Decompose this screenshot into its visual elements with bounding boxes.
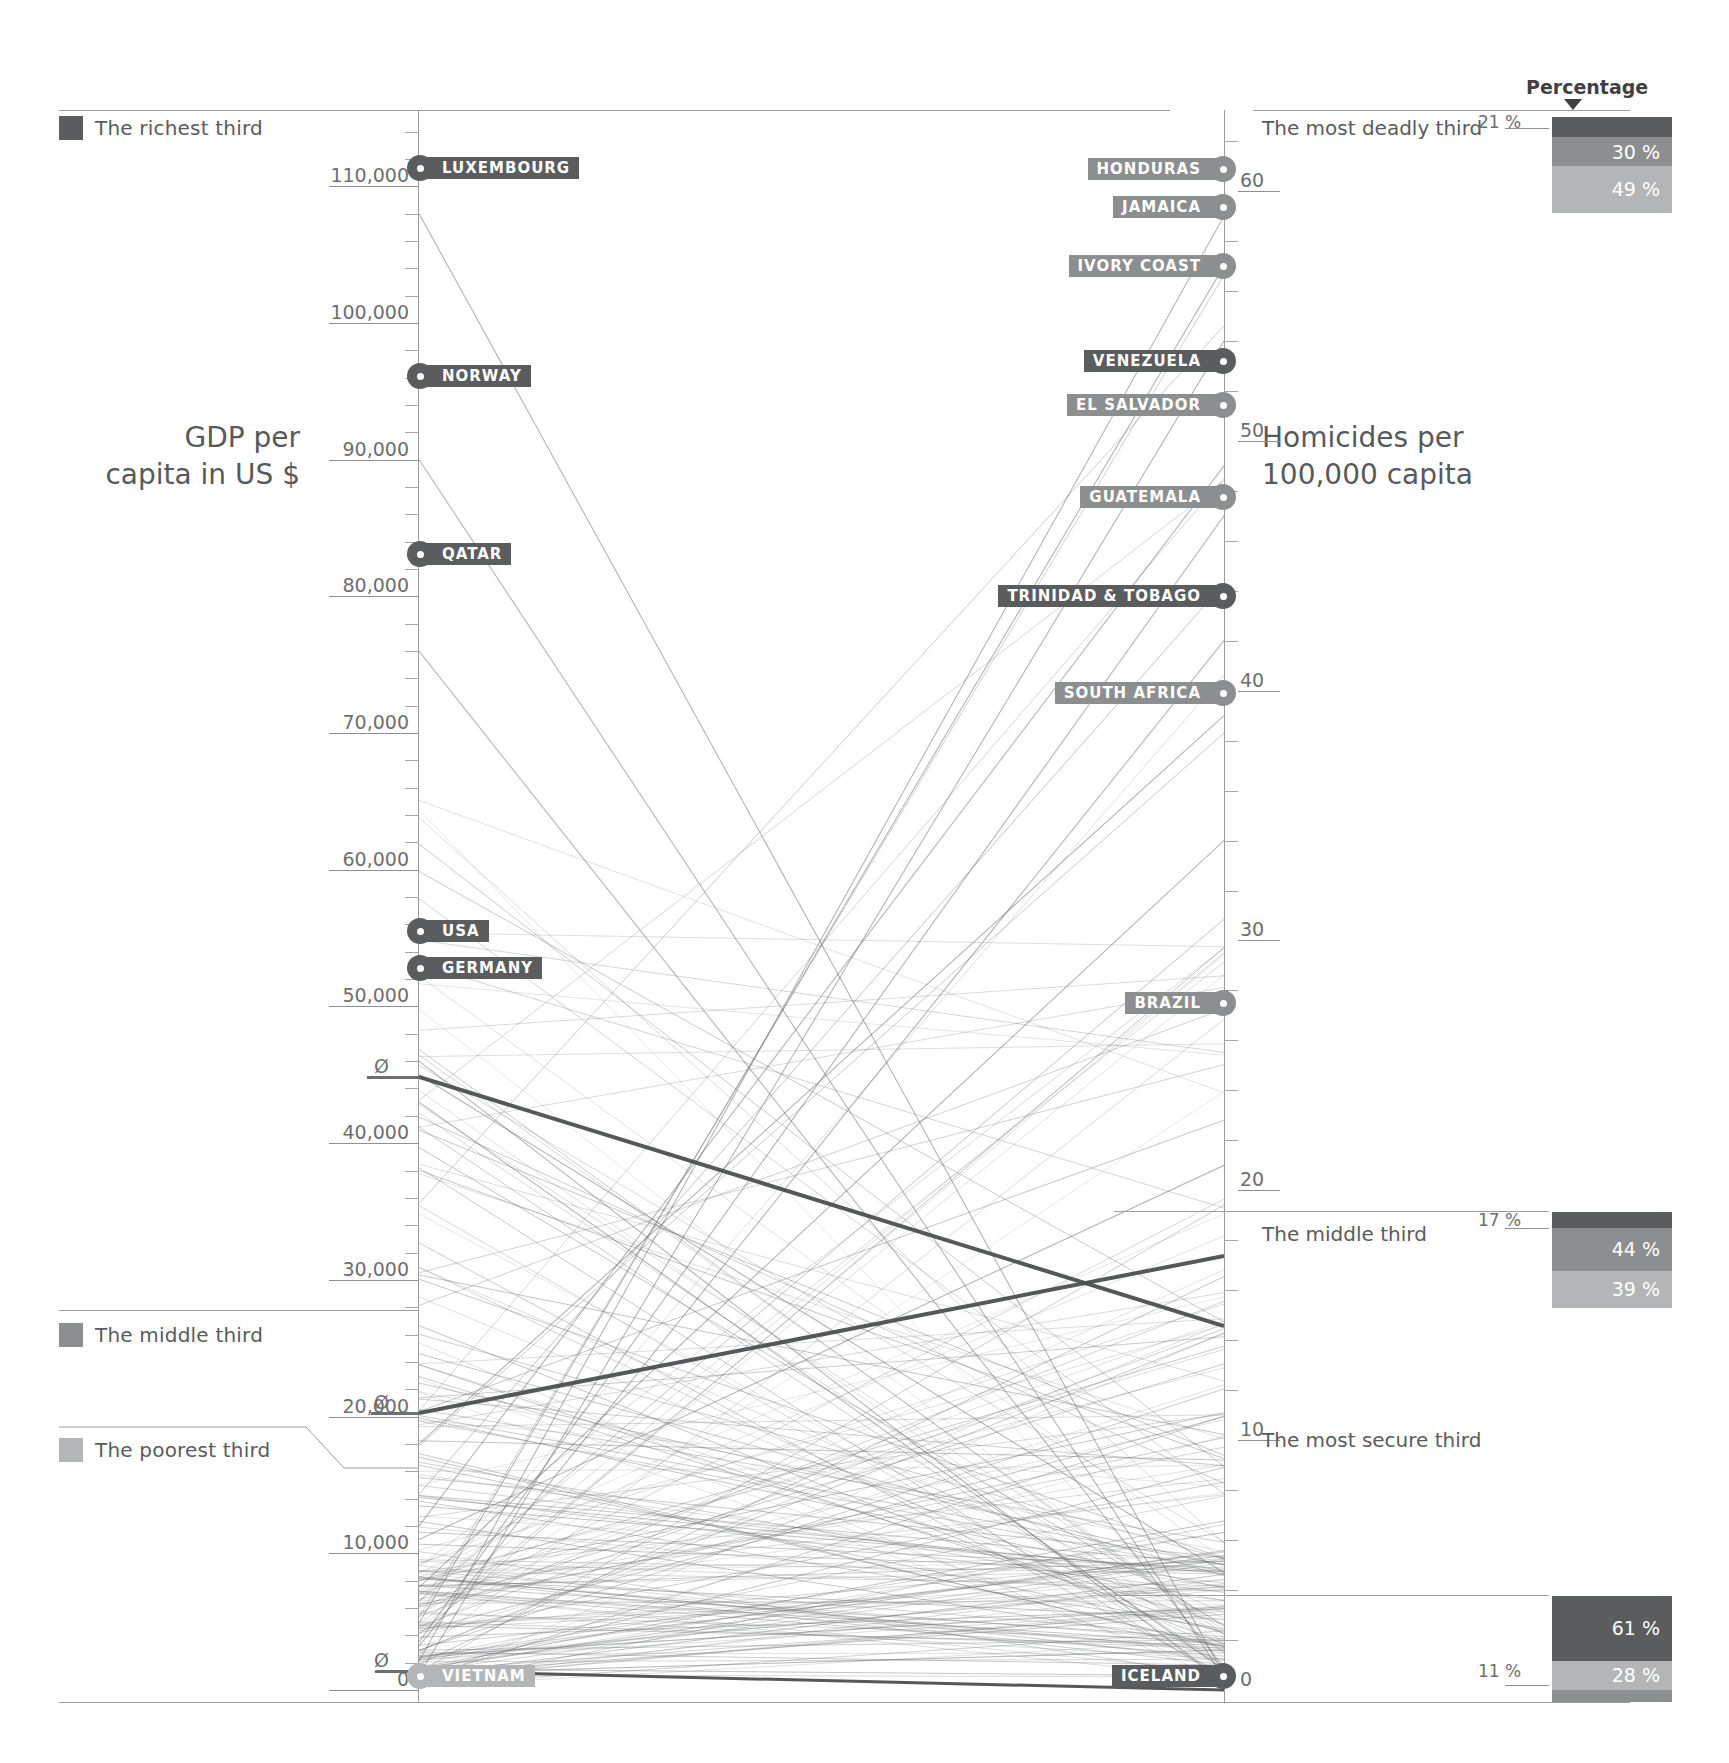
right-minor-tick <box>1224 241 1238 242</box>
country-label-trinidad-tobago[interactable]: TRINIDAD & TOBAGO <box>0 583 1236 609</box>
country-label-text: USA <box>426 920 489 942</box>
country-marker-dot <box>407 541 433 567</box>
left-tick-label: 100,000 <box>259 301 409 323</box>
bottom-frame-rule <box>59 1702 1630 1703</box>
legend-label-poorest: The poorest third <box>95 1438 270 1462</box>
legend-item-poorest[interactable]: The poorest third <box>59 1438 270 1462</box>
country-label-text: TRINIDAD & TOBAGO <box>998 585 1217 607</box>
bar-segment-value: 39 % <box>1612 1278 1672 1300</box>
country-label-text: SOUTH AFRICA <box>1055 682 1217 704</box>
bar-segment <box>1552 117 1672 137</box>
top-frame-rule <box>59 110 1170 111</box>
country-marker-dot <box>407 363 433 389</box>
right-tick-line <box>1238 191 1280 192</box>
panel-rule-most-deadly-third <box>1253 110 1630 111</box>
bar-segment-value: 49 % <box>1612 178 1672 200</box>
left-minor-tick <box>405 1088 419 1089</box>
country-label-text: IVORY COAST <box>1069 255 1218 277</box>
left-tick-line <box>329 1143 419 1144</box>
country-marker-dot <box>407 1663 433 1689</box>
right-tick-label: 60 <box>1240 169 1264 191</box>
country-label-qatar[interactable]: QATAR <box>407 541 511 567</box>
bar-segment: 49 % <box>1552 166 1672 213</box>
country-label-ivory-coast[interactable]: IVORY COAST <box>0 253 1236 279</box>
panel-outside-pct-most-secure-third: 11 % <box>1478 1661 1521 1681</box>
left-tick-line <box>329 1690 419 1691</box>
stacked-bar-middle-third[interactable]: 44 %39 % <box>1552 1212 1672 1308</box>
bar-segment-value: 44 % <box>1612 1238 1672 1260</box>
panel-leader-line-middle-third <box>1505 1228 1549 1229</box>
panel-title-most-secure-third: The most secure third <box>1262 1428 1481 1452</box>
left-minor-tick <box>405 788 419 789</box>
left-tick-line <box>329 733 419 734</box>
left-tick-label: 10,000 <box>259 1531 409 1553</box>
country-label-guatemala[interactable]: GUATEMALA <box>0 484 1236 510</box>
left-minor-tick <box>405 1444 419 1445</box>
right-tick-label: 40 <box>1240 669 1264 691</box>
left-tick-line <box>329 323 419 324</box>
right-minor-tick <box>1224 541 1238 542</box>
right-axis-title: Homicides per 100,000 capita <box>1262 420 1562 494</box>
left-minor-tick <box>405 897 419 898</box>
left-average-line <box>367 1076 419 1079</box>
country-marker-dot <box>1210 680 1236 706</box>
panel-title-middle-third: The middle third <box>1262 1222 1427 1246</box>
left-minor-tick <box>405 1471 419 1472</box>
left-minor-tick <box>405 432 419 433</box>
left-minor-tick <box>405 842 419 843</box>
left-tick-label: 30,000 <box>259 1258 409 1280</box>
stacked-bar-most-deadly-third[interactable]: 30 %49 % <box>1552 117 1672 213</box>
country-marker-dot <box>1210 1663 1236 1689</box>
country-label-germany[interactable]: GERMANY <box>407 955 542 981</box>
country-label-honduras[interactable]: HONDURAS <box>0 156 1236 182</box>
country-label-venezuela[interactable]: VENEZUELA <box>0 348 1236 374</box>
legend-label-middle: The middle third <box>95 1323 263 1347</box>
middle-third-legend-rule <box>59 1310 419 1311</box>
left-minor-tick <box>405 1307 419 1308</box>
panel-leader-line-most-deadly-third <box>1505 128 1549 129</box>
country-label-el-salvador[interactable]: EL SALVADOR <box>0 392 1236 418</box>
country-marker-dot <box>1210 194 1236 220</box>
left-average-label: Ø <box>269 1391 389 1413</box>
country-label-text: HONDURAS <box>1088 158 1217 180</box>
legend-item-middle[interactable]: The middle third <box>59 1323 263 1347</box>
left-minor-tick <box>405 1608 419 1609</box>
country-marker-dot <box>1210 156 1236 182</box>
left-minor-tick <box>405 1389 419 1390</box>
stacked-bar-most-secure-third[interactable]: 61 %28 % <box>1552 1596 1672 1702</box>
country-marker-dot <box>1210 392 1236 418</box>
country-label-text: ICELAND <box>1112 1665 1217 1687</box>
right-minor-tick <box>1224 1490 1238 1491</box>
left-tick-line <box>329 1553 419 1554</box>
legend-item-richest[interactable]: The richest third <box>59 116 263 140</box>
country-marker-dot <box>1210 484 1236 510</box>
country-marker-dot <box>407 918 433 944</box>
bar-segment-value: 28 % <box>1612 1664 1672 1686</box>
right-axis-title-line2: 100,000 capita <box>1262 457 1562 494</box>
country-marker-dot <box>1210 253 1236 279</box>
left-minor-tick <box>405 296 419 297</box>
country-label-usa[interactable]: USA <box>407 918 489 944</box>
country-label-text: JAMAICA <box>1113 196 1217 218</box>
right-tick-label: 0 <box>1240 1668 1252 1690</box>
right-tick-label: 30 <box>1240 918 1264 940</box>
left-average-line <box>371 1412 419 1415</box>
right-minor-tick <box>1224 791 1238 792</box>
country-label-brazil[interactable]: BRAZIL <box>0 990 1236 1016</box>
legend-label-richest: The richest third <box>95 116 263 140</box>
country-label-text: BRAZIL <box>1125 992 1217 1014</box>
country-marker-dot <box>1210 348 1236 374</box>
right-minor-tick <box>1224 1140 1238 1141</box>
country-label-jamaica[interactable]: JAMAICA <box>0 194 1236 220</box>
country-label-iceland[interactable]: ICELAND <box>0 1663 1236 1689</box>
panel-rule-most-secure-third <box>1114 1595 1549 1596</box>
country-label-text: GERMANY <box>426 957 542 979</box>
right-minor-tick <box>1224 1540 1238 1541</box>
country-marker-dot <box>407 155 433 181</box>
left-minor-tick <box>405 1581 419 1582</box>
left-minor-tick <box>405 624 419 625</box>
bar-segment: 61 % <box>1552 1596 1672 1661</box>
legend-swatch-poorest <box>59 1438 83 1462</box>
bar-segment-value: 30 % <box>1612 141 1672 163</box>
country-label-south-africa[interactable]: SOUTH AFRICA <box>0 680 1236 706</box>
